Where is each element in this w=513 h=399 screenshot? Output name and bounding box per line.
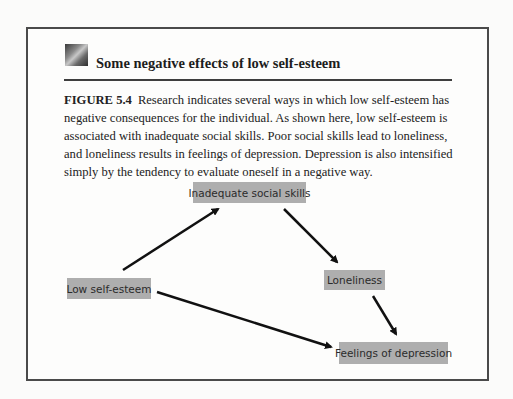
arrow-low-to-social <box>123 209 218 270</box>
arrow-social-to-loneliness <box>284 209 337 262</box>
node-feelings-of-depression: Feelings of depression <box>339 342 448 364</box>
node-inadequate-social-skills: Inadequate social skills <box>193 182 306 203</box>
arrow-low-to-depression <box>157 292 331 347</box>
arrow-loneliness-to-depression <box>373 296 396 334</box>
node-low-self-esteem: Low self-esteem <box>67 278 151 299</box>
node-loneliness: Loneliness <box>324 270 385 290</box>
